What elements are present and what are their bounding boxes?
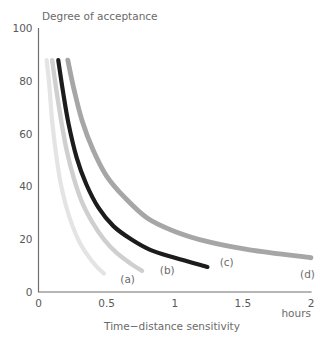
y-axis-tick-labels: 020406080100 (12, 22, 32, 298)
curve-group (47, 60, 311, 273)
y-tick-80: 80 (19, 75, 32, 87)
acceptance-vs-sensitivity-chart: 020406080100 00.511.52 (a)(b)(c)(d) Degr… (0, 0, 328, 339)
chart-container: 020406080100 00.511.52 (a)(b)(c)(d) Degr… (0, 0, 328, 339)
y-tick-60: 60 (19, 128, 32, 140)
x-tick-1.5: 1.5 (235, 297, 252, 309)
x-tick-0.5: 0.5 (98, 297, 115, 309)
y-axis-title: Degree of acceptance (42, 10, 158, 22)
curve-label-d: (d) (300, 268, 315, 280)
y-tick-20: 20 (19, 233, 32, 245)
curve-d (68, 60, 311, 258)
x-axis-tick-labels: 00.511.52 (35, 297, 314, 309)
curve-end-labels: (a)(b)(c)(d) (120, 256, 315, 285)
curve-label-b: (b) (160, 264, 175, 276)
x-tick-1: 1 (171, 297, 178, 309)
y-tick-100: 100 (12, 22, 32, 34)
curve-label-a: (a) (120, 273, 135, 285)
y-tick-40: 40 (19, 180, 32, 192)
x-axis-unit-label: hours (281, 307, 311, 319)
x-tick-0: 0 (35, 297, 42, 309)
x-axis-title: Time−distance sensitivity (103, 320, 240, 332)
y-tick-0: 0 (26, 286, 33, 298)
curve-label-c: (c) (220, 256, 234, 268)
